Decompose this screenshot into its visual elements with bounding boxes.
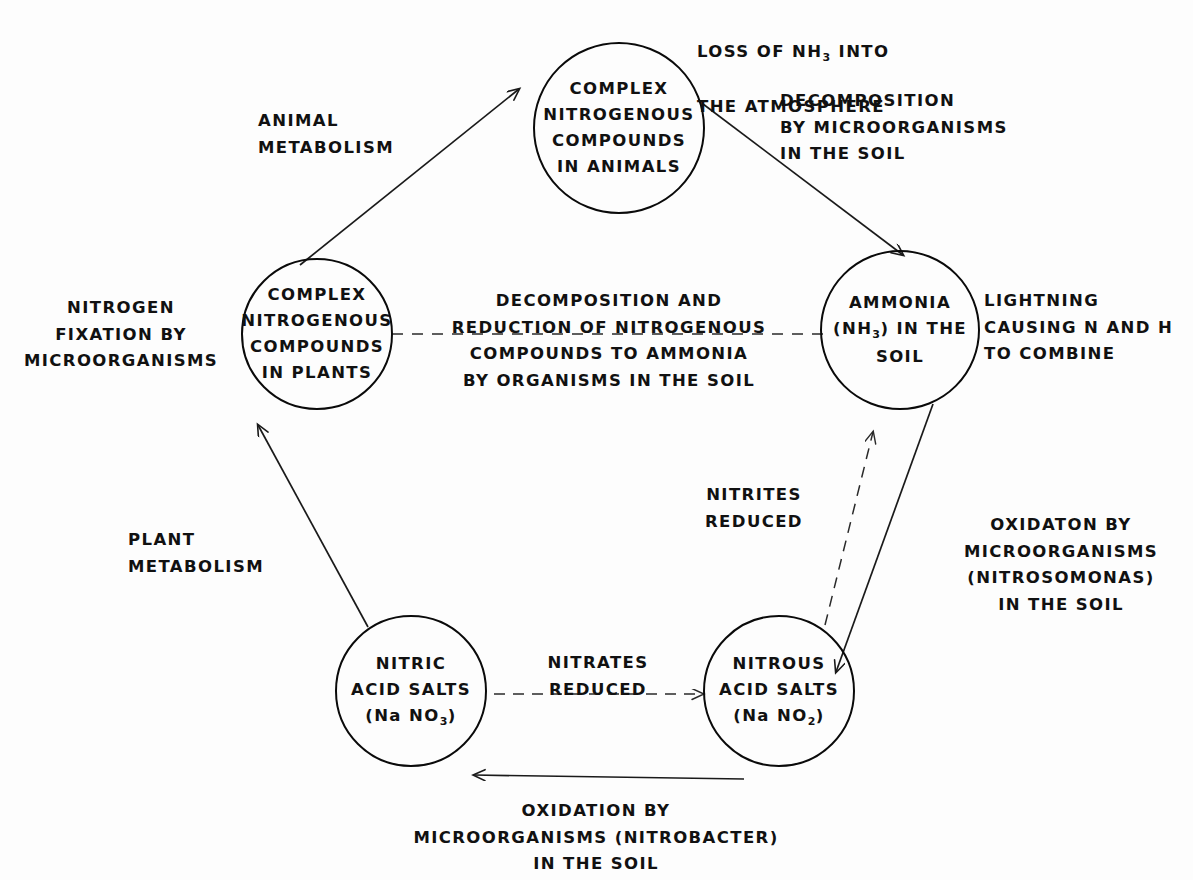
- label-oxidaton-by-microorganisms-nitrosomonas: OXIDATON BY MICROORGANISMS (NITROSOMONAS…: [946, 512, 1176, 619]
- node-label-line-formula: (Na NO3): [365, 703, 457, 731]
- node-label-line: COMPOUNDS: [552, 128, 686, 154]
- node-label-line: NITRIC: [376, 651, 447, 677]
- connector-nitrous-to-ammonia-dashed: [825, 432, 873, 625]
- node-label-line: ACID SALTS: [351, 677, 471, 703]
- node-label-line: NITROGENOUS: [241, 308, 392, 334]
- label-lightning-causing-n-and-h-to-combine: LIGHTNING CAUSING N AND H TO COMBINE: [984, 288, 1173, 368]
- node-label-line: IN ANIMALS: [557, 154, 681, 180]
- label-line-formula: LOSS OF NH3 INTO: [697, 39, 889, 67]
- label-center-decomposition-and-reduction: DECOMPOSITION AND REDUCTION OF NITROGENO…: [410, 288, 808, 395]
- node-nitrous-acid-salts[interactable]: NITROUS ACID SALTS (Na NO2): [703, 615, 855, 767]
- node-label-line: IN PLANTS: [262, 360, 373, 386]
- node-label-line: NITROUS: [732, 651, 825, 677]
- node-label-line: NITROGENOUS: [543, 102, 694, 128]
- node-complex-nitrogenous-compounds-in-animals[interactable]: COMPLEX NITROGENOUS COMPOUNDS IN ANIMALS: [533, 42, 705, 214]
- connector-nitric-to-plants: [258, 425, 368, 627]
- node-complex-nitrogenous-compounds-in-plants[interactable]: COMPLEX NITROGENOUS COMPOUNDS IN PLANTS: [241, 258, 393, 410]
- node-label-line: ACID SALTS: [719, 677, 839, 703]
- nitrogen-cycle-diagram: COMPLEX NITROGENOUS COMPOUNDS IN ANIMALS…: [0, 0, 1193, 880]
- node-ammonia-in-the-soil[interactable]: AMMONIA (NH3) IN THE SOIL: [820, 250, 980, 410]
- label-nitrates-reduced: NITRATES REDUCED: [528, 650, 668, 703]
- connector-nitrous-to-nitric: [474, 775, 744, 779]
- label-oxidation-by-microorganisms-nitrobacter: OXIDATION BY MICROORGANISMS (NITROBACTER…: [396, 798, 796, 878]
- label-decomposition-by-microorganisms-in-the-soil: DECOMPOSITION BY MICROORGANISMS IN THE S…: [780, 88, 1008, 168]
- label-animal-metabolism: ANIMAL METABOLISM: [258, 108, 394, 161]
- node-nitric-acid-salts[interactable]: NITRIC ACID SALTS (Na NO3): [335, 615, 487, 767]
- connector-ammonia-to-nitrous: [836, 404, 933, 672]
- node-label-line-formula: (NH3) IN THE: [833, 316, 967, 344]
- node-label-line-formula: (Na NO2): [733, 703, 825, 731]
- node-label-line: SOIL: [876, 344, 924, 370]
- label-nitrogen-fixation-by-microorganisms: NITROGEN FIXATION BY MICROORGANISMS: [10, 295, 232, 375]
- node-label-line: COMPLEX: [268, 282, 367, 308]
- label-plant-metabolism: PLANT METABOLISM: [128, 527, 264, 580]
- label-nitrites-reduced: NITRITES REDUCED: [684, 482, 824, 535]
- node-label-line: COMPLEX: [570, 76, 669, 102]
- node-label-line: COMPOUNDS: [250, 334, 384, 360]
- node-label-line: AMMONIA: [849, 290, 951, 316]
